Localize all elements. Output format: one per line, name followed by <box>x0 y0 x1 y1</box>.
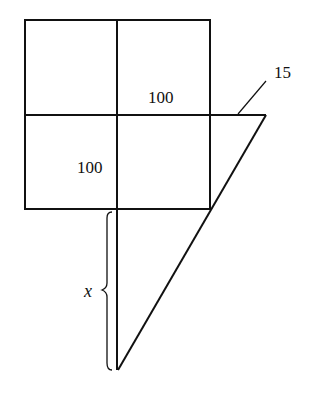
triangle-hypotenuse <box>118 115 266 370</box>
overhang-leader-line <box>238 81 266 114</box>
label-bottom-left-cell: 100 <box>77 158 103 177</box>
label-overhang: 15 <box>274 63 291 82</box>
label-top-right-cell: 100 <box>148 88 174 107</box>
label-brace-variable: x <box>83 281 92 301</box>
brace-icon <box>102 212 112 370</box>
diagram-canvas: 100 100 15 x <box>0 0 315 406</box>
